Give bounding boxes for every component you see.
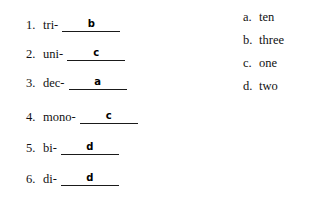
choice-letter: b.: [243, 33, 259, 47]
written-answer: c: [67, 48, 125, 58]
question-item: 3. dec- a: [26, 66, 127, 90]
written-answer: d: [61, 142, 119, 152]
question-prefix: mono-: [43, 110, 76, 124]
question-prefix: bi-: [43, 141, 57, 155]
choice-text: three: [259, 33, 284, 47]
choice-letter: d.: [243, 79, 259, 93]
choice-letter: c.: [243, 56, 259, 70]
question-prefix: di-: [43, 172, 57, 186]
choice-text: ten: [259, 10, 274, 24]
answer-choice-item[interactable]: c. one: [243, 56, 313, 79]
written-answer: d: [61, 173, 119, 183]
answer-blank[interactable]: c: [67, 46, 125, 61]
answer-blank[interactable]: d: [61, 140, 119, 155]
answer-choice-item[interactable]: b. three: [243, 33, 313, 56]
question-number: 6.: [26, 172, 43, 186]
question-item: 4. mono- c: [26, 100, 138, 124]
answer-blank[interactable]: c: [80, 109, 138, 124]
written-answer: b: [62, 19, 120, 29]
choice-text: two: [259, 79, 278, 93]
choice-letter: a.: [243, 10, 259, 24]
question-prefix: uni-: [43, 47, 63, 61]
question-item: 1. tri- b: [26, 8, 120, 32]
answer-choice-item[interactable]: a. ten: [243, 10, 313, 33]
question-number: 2.: [26, 47, 43, 61]
answer-choice-item[interactable]: d. two: [243, 79, 313, 102]
answer-blank[interactable]: d: [61, 171, 119, 186]
worksheet-page: 1. tri- b 2. uni- c 3. dec- a 4. mono- c: [0, 0, 313, 201]
question-prefix: dec-: [43, 76, 65, 90]
written-answer: a: [69, 77, 127, 87]
question-item: 2. uni- c: [26, 37, 125, 61]
answer-blank[interactable]: a: [69, 75, 127, 90]
answer-choice-list: a. ten b. three c. one d. two: [243, 10, 313, 102]
question-item: 6. di- d: [26, 162, 119, 186]
question-number: 5.: [26, 141, 43, 155]
choice-text: one: [259, 56, 277, 70]
question-item: 5. bi- d: [26, 131, 119, 155]
written-answer: c: [80, 111, 138, 121]
question-prefix: tri-: [43, 18, 58, 32]
answer-blank[interactable]: b: [62, 17, 120, 32]
question-number: 1.: [26, 18, 43, 32]
question-number: 4.: [26, 110, 43, 124]
question-number: 3.: [26, 76, 43, 90]
